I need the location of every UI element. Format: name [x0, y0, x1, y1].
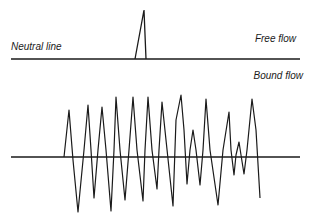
neutral-line-label: Neutral line	[11, 42, 62, 52]
bound-flow-waveform	[64, 95, 260, 212]
free-flow-label: Free flow	[255, 34, 296, 44]
flow-diagram: Neutral line Free flow Bound flow	[0, 0, 313, 218]
bound-flow-label: Bound flow	[254, 71, 303, 81]
free-flow-spike	[135, 10, 146, 59]
